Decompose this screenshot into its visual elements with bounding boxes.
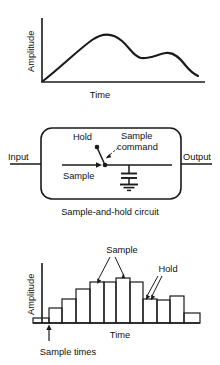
staircase-sample-label: Sample (106, 245, 138, 255)
table-row (33, 318, 49, 323)
waveform-y-axis-label: Amplitude (26, 31, 36, 72)
table-row (170, 296, 184, 323)
input-label: Input (8, 152, 29, 162)
table-row (49, 308, 62, 323)
sample-arrow-head-1-icon (97, 279, 101, 285)
analog-waveform-chart: Amplitude Time (0, 0, 220, 115)
spdt-switch-icon (98, 149, 106, 166)
sample-annotation-arrows (98, 257, 124, 280)
sample-command-label-line1: Sample (121, 131, 153, 141)
table-row (157, 300, 170, 323)
table-row (184, 313, 200, 323)
sample-label: Sample (63, 171, 95, 181)
sample-direction-arrow-icon (96, 162, 102, 168)
hold-label: Hold (73, 132, 92, 142)
ground-icon (120, 185, 138, 191)
panel-sample-hold-circuit: Input Output (0, 115, 220, 237)
staircase-bars (33, 278, 200, 323)
analog-signal-curve (43, 35, 198, 82)
sampled-staircase-chart: Sample Hold Sample times Amplitude Time (0, 237, 220, 365)
table-row (116, 278, 130, 323)
sample-times-arrow-head-icon (46, 325, 51, 331)
waveform-x-axis-label: Time (90, 90, 110, 100)
capacitor-icon (121, 174, 137, 179)
circuit-block-outline (41, 128, 181, 199)
hold-contact-dot (95, 145, 100, 150)
staircase-y-axis-label: Amplitude (26, 274, 36, 315)
sample-and-hold-figure: Amplitude Time Input Output (0, 0, 220, 365)
staircase-x-axis-label: Time (110, 330, 130, 340)
sample-hold-circuit-diagram: Input Output (0, 115, 220, 237)
sample-command-label-line2: command (117, 142, 158, 152)
staircase-hold-label: Hold (158, 264, 177, 274)
table-row (130, 282, 143, 323)
output-label: Output (183, 152, 211, 162)
table-row (104, 282, 116, 323)
table-row (76, 289, 90, 323)
circuit-caption: Sample-and-hold circuit (61, 207, 159, 217)
table-row (90, 282, 104, 323)
sample-times-label: Sample times (40, 347, 97, 357)
table-row (62, 299, 76, 323)
hold-annotation-arrows (147, 276, 162, 296)
table-row (143, 299, 157, 323)
panel-analog-waveform: Amplitude Time (0, 0, 220, 115)
panel-sampled-staircase: Sample Hold Sample times Amplitude Time (0, 237, 220, 365)
sample-arrow-head-2-icon (121, 273, 125, 278)
